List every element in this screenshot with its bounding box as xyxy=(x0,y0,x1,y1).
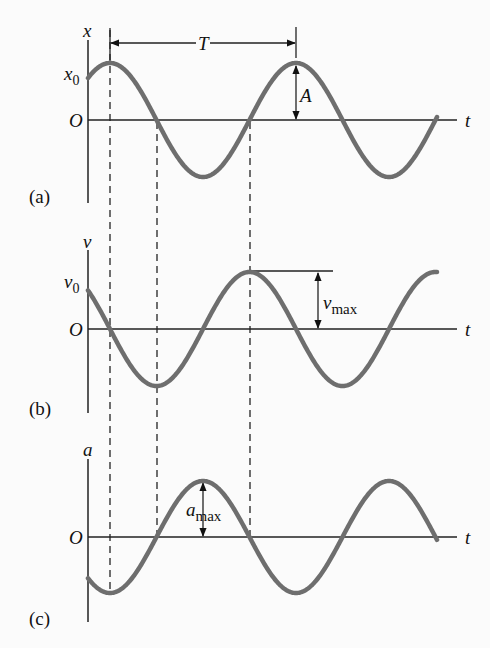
v0-label: v0 xyxy=(64,272,79,291)
origin-label-b: O xyxy=(69,320,83,339)
panel-b-velocity xyxy=(88,250,457,413)
t-label-b: t xyxy=(465,320,470,339)
period-label: T xyxy=(197,34,210,53)
amax-label: amax xyxy=(186,500,221,519)
vmax-label-sub: max xyxy=(331,301,357,317)
t-label-a: t xyxy=(465,111,470,130)
panel-a-displacement xyxy=(88,27,457,203)
amplitude-label: A xyxy=(300,86,312,105)
a-axis-label: a xyxy=(83,440,93,459)
vmax-label: vmax xyxy=(323,293,357,312)
amax-label-sub: max xyxy=(196,508,222,524)
v-axis-label: v xyxy=(83,232,91,251)
x-axis-label: x xyxy=(83,21,91,40)
panel-c-tag: (c) xyxy=(29,609,50,628)
origin-label-a: O xyxy=(69,111,83,130)
t-label-c: t xyxy=(465,528,470,547)
amax-label-main: a xyxy=(186,499,196,520)
dashed-guide-lines xyxy=(110,30,250,595)
panel-b-tag: (b) xyxy=(29,399,51,418)
v0-label-sub: 0 xyxy=(72,281,79,296)
panel-a-tag: (a) xyxy=(29,187,50,206)
origin-label-c: O xyxy=(69,528,83,547)
panel-c-acceleration xyxy=(88,459,457,622)
x0-label-sub: 0 xyxy=(72,73,79,88)
x0-label: x0 xyxy=(64,64,79,83)
